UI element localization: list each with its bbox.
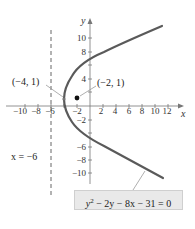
x-tick-label: −8 [31,106,41,116]
x-tick-label: 6 [127,106,132,116]
x-tick-label: 8 [140,106,145,116]
focus-point [75,96,80,101]
x-tick-label: 10 [151,106,161,116]
y-tick-label: −8 [76,155,86,165]
vertex-point [62,97,65,100]
x-tick-label: 2 [99,106,104,116]
vertex-leader-line [46,85,63,97]
y-axis-label: y [80,15,86,26]
focus-label: (−2, 1) [97,77,124,89]
y-tick-label: 8 [82,47,87,57]
x-tick-label: −10 [13,106,28,116]
vertex-label: (−4, 1) [12,76,39,88]
y-axis-arrow-icon [88,18,93,24]
equation-text: − 2y − 8x − 31 = 0 [94,198,172,209]
equation-leader-line [133,171,145,190]
y-tick-label: 4 [82,74,87,84]
x-tick-label: 12 [163,106,172,116]
x-tick-label: −6 [45,106,55,116]
focus-leader-line [80,86,96,96]
y-tick-label: −10 [72,168,87,178]
y-tick-label: −2 [76,115,86,125]
equation-label-box: y2 − 2y − 8x − 31 = 0 [74,190,183,210]
directrix-label: x = −6 [11,151,37,162]
y-axis: 10 8 4 −2 −6 −8 −10 y [72,15,93,184]
x-tick-label: 4 [113,106,118,116]
y-tick-label: −6 [76,142,86,152]
x-axis-label: x [180,108,186,119]
x-axis: −10 −8 −6 −2 2 4 6 8 10 12 x [6,104,186,120]
y-tick-label: 10 [77,33,87,43]
